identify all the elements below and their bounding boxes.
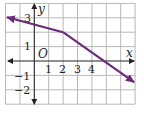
x-tick-label: 1 — [45, 63, 52, 76]
origin-label: O — [38, 47, 48, 61]
y-tick-label: −2 — [14, 84, 30, 97]
y-tick-label: 1 — [24, 40, 31, 53]
coordinate-plane: y x O 1 2 3 4 3 1 −1 −2 — [0, 0, 144, 113]
y-axis-label: y — [37, 2, 45, 16]
x-tick-label: 4 — [88, 63, 95, 76]
y-tick-label: −1 — [14, 70, 30, 83]
x-axis-label: x — [126, 46, 133, 60]
x-tick-label: 3 — [74, 63, 81, 76]
x-tick-label: 2 — [59, 63, 66, 76]
